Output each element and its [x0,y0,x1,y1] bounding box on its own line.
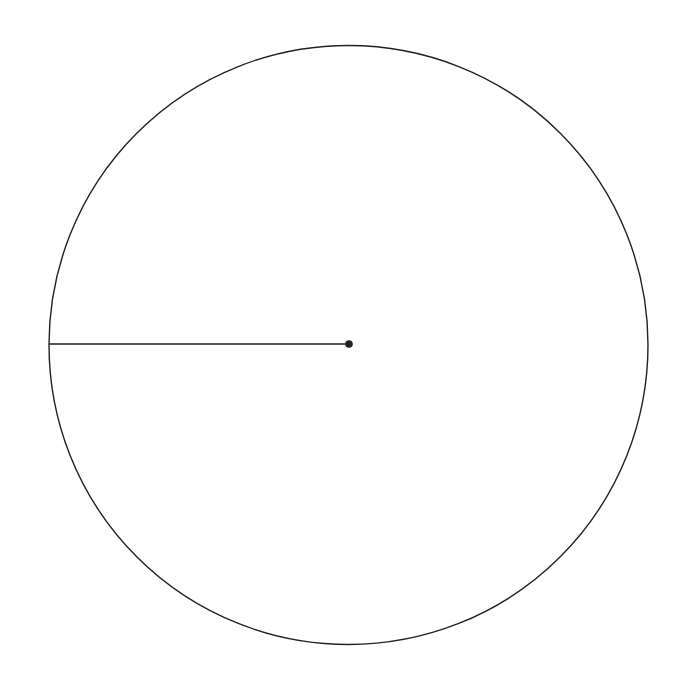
center-point [345,340,353,348]
diagram-canvas [0,0,688,685]
